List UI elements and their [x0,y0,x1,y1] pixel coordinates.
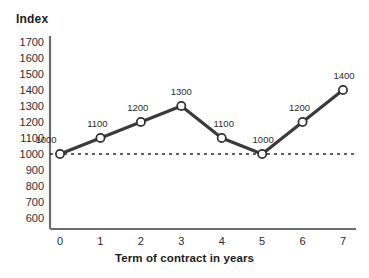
x-axis-title: Term of contract in years [0,252,369,264]
data-point-label: 1000 [243,135,283,145]
data-point-labels: 10001100120013001100100012001400 [0,0,369,278]
data-point-label: 1100 [204,119,244,129]
chart-container: Index 1700160015001400130012001100100090… [0,0,369,278]
data-point-label: 1100 [77,119,117,129]
data-point-label: 1200 [118,103,158,113]
data-point-label: 1400 [324,71,364,81]
data-point-label: 1000 [26,135,66,145]
data-point-label: 1300 [161,87,201,97]
data-point-label: 1200 [280,103,320,113]
